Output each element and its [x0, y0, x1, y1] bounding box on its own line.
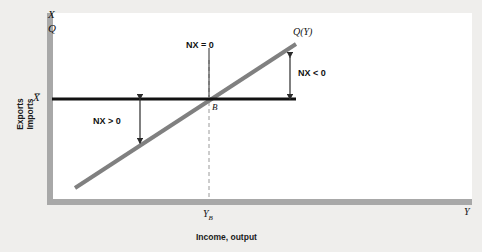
balance-label-nx-equals-zero: NX = 0	[186, 40, 214, 50]
y-axis-top-label-q: Q	[48, 22, 56, 34]
y-axis-top-label-x: X	[48, 8, 55, 20]
y-axis-title-line1: Exports	[15, 75, 25, 153]
curve-label-qy: Q(Y)	[293, 26, 312, 37]
x-axis-end-label-y: Y	[464, 206, 470, 217]
y-axis	[47, 13, 53, 205]
y-axis-title: Exports Imports	[15, 75, 35, 153]
surplus-label-nx-greater-zero: NX > 0	[93, 116, 121, 126]
plot-area	[52, 13, 472, 205]
x-tick-label-yb: YB	[203, 208, 213, 222]
x-axis-title: Income, output	[196, 232, 257, 242]
y-axis-title-line2: Imports	[25, 75, 35, 153]
deficit-label-nx-less-zero: NX < 0	[298, 68, 326, 78]
x-axis	[47, 199, 472, 205]
y-tick-label-xbar: X̅	[33, 91, 40, 103]
net-exports-diagram	[0, 0, 482, 252]
equilibrium-point-label-b: B	[212, 102, 218, 112]
